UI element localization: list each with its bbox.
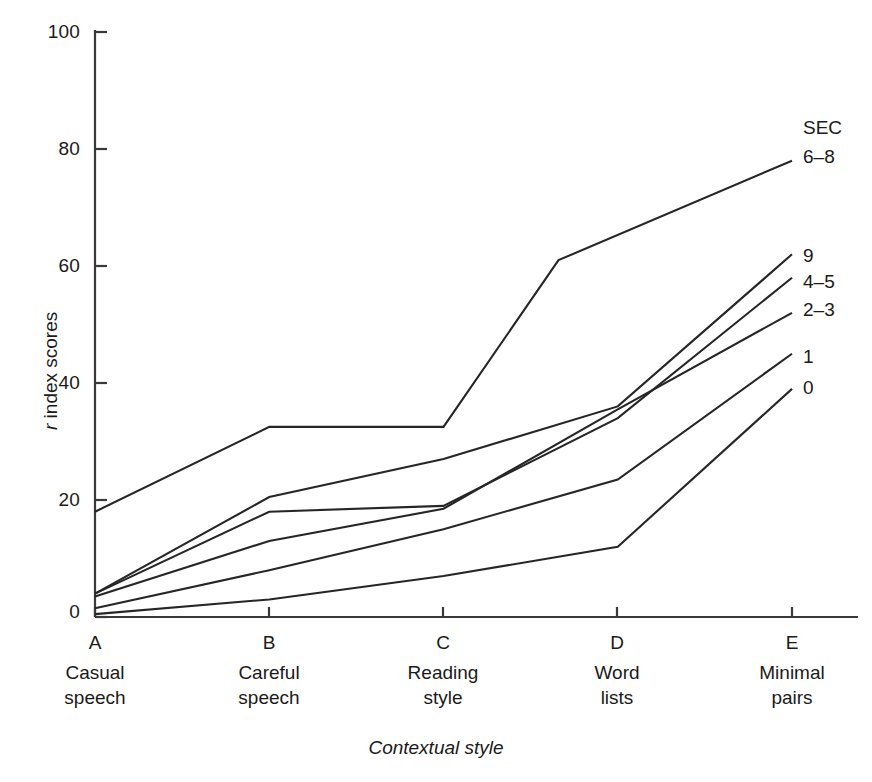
series-line-9 (95, 254, 792, 593)
y-tick-label-60: 60 (18, 255, 80, 277)
y-tick-label-0: 0 (18, 601, 80, 623)
series-line-2-3 (95, 313, 792, 597)
y-tick-label-80: 80 (18, 138, 80, 160)
x-tick-caption-b-line2: speech (214, 685, 324, 710)
y-axis-title: r index scores (40, 312, 62, 430)
x-tick-caption-c: Reading style (388, 660, 498, 710)
y-tick-label-20: 20 (18, 489, 80, 511)
y-axis-title-italic-r: r (40, 424, 61, 430)
x-tick-caption-d-line1: Word (562, 660, 672, 685)
x-tick-letter-a: A (55, 632, 135, 654)
x-tick-caption-b-line1: Careful (214, 660, 324, 685)
x-tick-caption-a-line1: Casual (40, 660, 150, 685)
x-tick-caption-d: Word lists (562, 660, 672, 710)
legend-title: SEC (803, 117, 842, 139)
x-tick-caption-a-line2: speech (40, 685, 150, 710)
x-tick-caption-e: Minimal pairs (737, 660, 847, 710)
data-series-group (95, 161, 792, 614)
series-label-9: 9 (803, 245, 814, 267)
series-line-0 (95, 389, 792, 614)
x-axis-title: Contextual style (336, 737, 536, 759)
x-tick-caption-b: Careful speech (214, 660, 324, 710)
x-tick-letter-d: D (577, 632, 657, 654)
series-label-6-8: 6–8 (803, 146, 835, 168)
series-label-2-3: 2–3 (803, 299, 835, 321)
y-tick-marks (95, 32, 107, 617)
x-tick-letter-c: C (403, 632, 483, 654)
x-tick-marks (95, 607, 792, 617)
series-line-1 (95, 354, 792, 608)
series-label-0: 0 (803, 377, 814, 399)
series-label-4-5: 4–5 (803, 271, 835, 293)
x-tick-caption-a: Casual speech (40, 660, 150, 710)
series-label-1: 1 (803, 346, 814, 368)
y-tick-label-100: 100 (18, 21, 80, 43)
x-tick-caption-c-line2: style (388, 685, 498, 710)
x-tick-caption-c-line1: Reading (388, 660, 498, 685)
x-tick-caption-e-line2: pairs (737, 685, 847, 710)
series-line-4-5 (95, 278, 792, 594)
x-tick-letter-e: E (752, 632, 832, 654)
x-tick-caption-d-line2: lists (562, 685, 672, 710)
y-axis-title-rest: index scores (40, 312, 61, 424)
chart-figure: 100 80 60 40 20 0 r index scores A B C D… (0, 0, 872, 782)
x-tick-caption-e-line1: Minimal (737, 660, 847, 685)
x-tick-letter-b: B (229, 632, 309, 654)
